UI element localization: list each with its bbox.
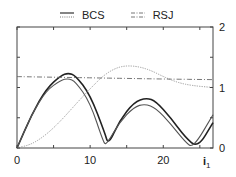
y-tick-label: 0 <box>219 142 225 154</box>
x-tick-label: 0 <box>14 154 20 166</box>
x-tick-label: 10 <box>84 154 96 166</box>
chart-plot: 01020012 i1 <box>0 0 236 177</box>
series-dash-dot <box>17 77 213 80</box>
y-tick-label: 1 <box>219 82 225 94</box>
plot-series <box>17 66 213 148</box>
x-axis-label: i1 <box>203 155 211 170</box>
y-tick-label: 2 <box>219 21 225 33</box>
series-solid-upper <box>17 74 213 148</box>
x-tick-label: 20 <box>157 154 169 166</box>
